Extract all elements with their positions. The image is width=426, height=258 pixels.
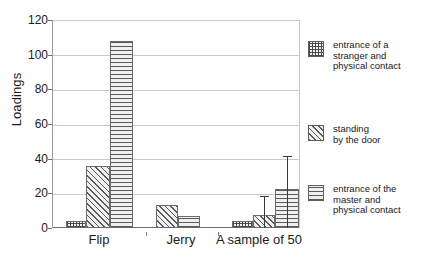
horizontal-lines-swatch-icon (308, 185, 324, 201)
x-tick-label-flip: Flip (89, 232, 110, 247)
cross-hatch-swatch-icon (308, 41, 324, 57)
y-tick-label-0: 0 (4, 221, 48, 235)
legend-label-master: entrance of the master and physical cont… (333, 184, 401, 216)
x-axis-labels: Flip Jerry A sample of 50 (52, 232, 300, 254)
x-tick-label-jerry: Jerry (167, 232, 196, 247)
y-tick-label-40: 40 (4, 152, 48, 166)
y-tick-label-60: 60 (4, 117, 48, 131)
error-bar-stem (264, 197, 265, 228)
bars-layer (52, 20, 300, 228)
x-tick-label-sample: A sample of 50 (216, 232, 302, 247)
y-axis-ticks: 0 20 40 60 80 100 120 (0, 0, 48, 258)
diagonal-hatch-swatch-icon (308, 125, 324, 141)
bar-jerry-master (178, 216, 200, 228)
x-tick-mark-1 (146, 232, 147, 236)
y-tick-mark-0 (48, 228, 52, 229)
bar-flip-stranger (66, 221, 86, 228)
bar-sample-stranger (232, 221, 253, 228)
legend-item-stranger: entrance of a stranger and physical cont… (308, 40, 401, 72)
error-bar-cap (260, 196, 269, 197)
legend-label-stranger: entrance of a stranger and physical cont… (333, 40, 401, 72)
legend: entrance of a stranger and physical cont… (308, 20, 426, 232)
y-tick-label-120: 120 (4, 13, 48, 27)
error-bar-cap (283, 156, 292, 157)
y-tick-label-80: 80 (4, 82, 48, 96)
error-bar-stem (287, 157, 288, 228)
bar-flip-master (110, 41, 133, 228)
bar-flip-standing (86, 166, 110, 228)
legend-item-master: entrance of the master and physical cont… (308, 184, 401, 216)
legend-item-standing: standing by the door (308, 124, 381, 145)
bar-chart: Loadings 0 20 40 60 80 100 120 (0, 0, 426, 258)
y-tick-label-100: 100 (4, 48, 48, 62)
y-tick-label-20: 20 (4, 186, 48, 200)
bar-jerry-standing (156, 205, 178, 228)
legend-label-standing: standing by the door (333, 124, 381, 145)
